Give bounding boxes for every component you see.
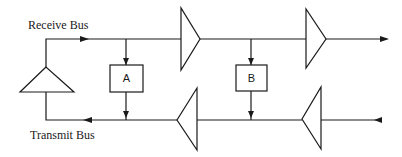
transmit-direction-arrow-icon [83,117,92,123]
transmit-amplifier-2-icon [302,87,321,149]
receive-direction-arrow-icon [80,36,89,42]
box-a-out-arrow-icon [123,111,129,118]
box-b-in-arrow-icon [248,58,254,65]
receive-amplifier-1-icon [181,8,200,70]
box-a-in-arrow-icon [123,58,129,65]
transmit-bus-line [46,92,380,120]
transmit-amplifier-1-icon [177,88,197,150]
box-b-label: B [236,73,267,84]
transmit-input-arrow-icon [374,117,382,123]
receive-output-arrow-icon [380,36,389,42]
transmit-bus-label: Transmit Bus [30,129,95,141]
loopback-amplifier-icon [20,67,74,92]
box-b-out-arrow-icon [248,111,254,118]
box-a-label: A [110,73,143,84]
receive-amplifier-2-icon [306,9,326,68]
receive-bus-label: Receive Bus [28,19,88,31]
receive-bus-line [46,39,387,67]
bus-diagram: Receive Bus Transmit Bus A B [0,0,402,157]
